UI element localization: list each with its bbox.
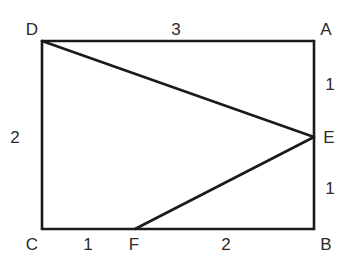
length-label-CF: 1 — [83, 235, 92, 254]
geometry-diagram: D A E C F B 3 1 1 2 1 2 — [0, 0, 343, 263]
length-label-DC: 2 — [10, 128, 19, 147]
length-label-FB: 2 — [221, 235, 230, 254]
vertex-label-E: E — [323, 128, 334, 147]
vertex-label-B: B — [320, 235, 331, 254]
length-label-AE: 1 — [325, 75, 334, 94]
vertex-label-D: D — [26, 20, 38, 39]
segment-DE — [42, 41, 314, 137]
length-label-EB: 1 — [325, 179, 334, 198]
segment-FE — [135, 137, 314, 229]
length-label-DA: 3 — [171, 20, 180, 39]
vertex-label-A: A — [320, 20, 332, 39]
vertex-label-C: C — [26, 235, 38, 254]
vertex-label-F: F — [129, 235, 139, 254]
